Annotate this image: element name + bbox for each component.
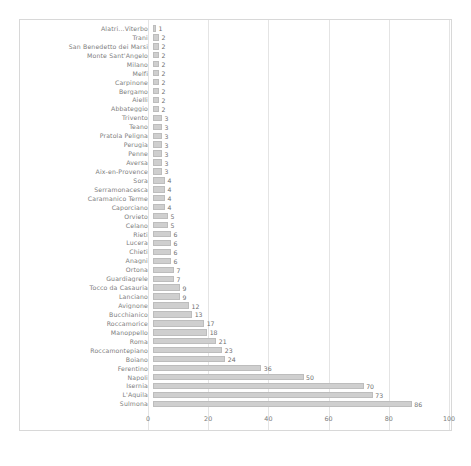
x-tick-label: 0 <box>146 415 150 423</box>
bar[interactable] <box>153 115 162 121</box>
bar-track: 12 <box>153 301 451 310</box>
bar-row[interactable]: Monte Sant'Angelo2 <box>20 51 451 60</box>
bar-row[interactable]: Orvieto5 <box>20 212 451 221</box>
bar[interactable] <box>153 311 192 317</box>
bar-row[interactable]: Lucera6 <box>20 239 451 248</box>
bar-row[interactable]: Caporciano4 <box>20 203 451 212</box>
bar-row[interactable]: Rieti6 <box>20 230 451 239</box>
bar-row[interactable]: Napoli50 <box>20 373 451 382</box>
bar-row[interactable]: Aix-en-Provence3 <box>20 167 451 176</box>
bar[interactable] <box>153 195 165 201</box>
bar-row[interactable]: San Benedetto dei Marsi2 <box>20 42 451 51</box>
bar-row[interactable]: Tocco da Casauria9 <box>20 283 451 292</box>
bar-row[interactable]: Anagni6 <box>20 256 451 265</box>
bar[interactable] <box>153 222 168 228</box>
bar-category-label: Alatri...Viterbo <box>20 25 153 32</box>
x-tick-label: 40 <box>264 415 272 423</box>
bar-value-label: 73 <box>373 391 383 398</box>
bar-category-label: Caramanico Terme <box>20 195 153 202</box>
bar-value-label: 2 <box>159 96 165 103</box>
bar-row[interactable]: Chieti6 <box>20 247 451 256</box>
bar-category-label: Celano <box>20 222 153 229</box>
bar-category-label: Manoppello <box>20 329 153 336</box>
bar-value-label: 2 <box>159 43 165 50</box>
bar-track: 2 <box>153 33 451 42</box>
bar-row[interactable]: Perugia3 <box>20 140 451 149</box>
bar-row[interactable]: Lanciano9 <box>20 292 451 301</box>
bar-category-label: Penne <box>20 150 153 157</box>
bar[interactable] <box>153 159 162 165</box>
bar[interactable] <box>153 213 168 219</box>
bar-row[interactable]: Sora4 <box>20 176 451 185</box>
bar-row[interactable]: Guardiagrele7 <box>20 274 451 283</box>
bar[interactable] <box>153 293 180 299</box>
bar-row[interactable]: Caramanico Terme4 <box>20 194 451 203</box>
bar[interactable] <box>153 141 162 147</box>
bar[interactable] <box>153 276 174 282</box>
bar-row[interactable]: Celano5 <box>20 221 451 230</box>
bar-row[interactable]: Milano2 <box>20 60 451 69</box>
bar-row[interactable]: Avignone12 <box>20 301 451 310</box>
bar[interactable] <box>153 249 171 255</box>
bar-row[interactable]: Trani2 <box>20 33 451 42</box>
bar-category-label: Lucera <box>20 239 153 246</box>
bar-track: 2 <box>153 60 451 69</box>
bar-row[interactable]: Alatri...Viterbo1 <box>20 24 451 33</box>
bar-row[interactable]: Sulmona86 <box>20 399 451 408</box>
bar-row[interactable]: Aielli2 <box>20 96 451 105</box>
bar-track: 13 <box>153 310 451 319</box>
bar-row[interactable]: Melfi2 <box>20 69 451 78</box>
bar[interactable] <box>153 347 222 353</box>
bar-row[interactable]: Bucchianico13 <box>20 310 451 319</box>
bar-category-label: Napoli <box>20 374 153 381</box>
bar[interactable] <box>153 338 216 344</box>
bar[interactable] <box>153 133 162 139</box>
bar[interactable] <box>153 284 180 290</box>
bar[interactable] <box>153 240 171 246</box>
bar[interactable] <box>153 302 189 308</box>
bar-row[interactable]: Aversa3 <box>20 158 451 167</box>
bar-row[interactable]: Carpinone2 <box>20 78 451 87</box>
bar[interactable] <box>153 401 412 407</box>
bar-row[interactable]: Boiano24 <box>20 355 451 364</box>
bar-row[interactable]: Penne3 <box>20 149 451 158</box>
bar-track: 70 <box>153 382 451 391</box>
bar-row[interactable]: Roccamontepiano23 <box>20 346 451 355</box>
bar[interactable] <box>153 150 162 156</box>
bar-row[interactable]: Manoppello18 <box>20 328 451 337</box>
bar-row[interactable]: Ferentino36 <box>20 364 451 373</box>
bar-row[interactable]: Teano3 <box>20 122 451 131</box>
bar-row[interactable]: Roccamorice17 <box>20 319 451 328</box>
bar-category-label: Anagni <box>20 257 153 264</box>
bar-row[interactable]: Serramonacesca4 <box>20 185 451 194</box>
bar[interactable] <box>153 365 261 371</box>
bar[interactable] <box>153 320 204 326</box>
bar-row[interactable]: Trivento3 <box>20 113 451 122</box>
bar-track: 18 <box>153 328 451 337</box>
bar[interactable] <box>153 204 165 210</box>
bar-row[interactable]: Pratola Peligna3 <box>20 131 451 140</box>
bar[interactable] <box>153 392 373 398</box>
bar[interactable] <box>153 231 171 237</box>
bar[interactable] <box>153 186 165 192</box>
bar-category-label: Carpinone <box>20 79 153 86</box>
bar[interactable] <box>153 329 207 335</box>
bar[interactable] <box>153 258 171 264</box>
bar-category-label: Trani <box>20 34 153 41</box>
bar-row[interactable]: Roma21 <box>20 337 451 346</box>
bar-value-label: 6 <box>171 239 177 246</box>
bar-row[interactable]: Abbateggio2 <box>20 104 451 113</box>
bar[interactable] <box>153 267 174 273</box>
bar-row[interactable]: L'Aquila73 <box>20 390 451 399</box>
bar-category-label: Roccamontepiano <box>20 347 153 354</box>
bar-value-label: 2 <box>159 70 165 77</box>
bar[interactable] <box>153 177 165 183</box>
bar[interactable] <box>153 374 304 380</box>
bar[interactable] <box>153 124 162 130</box>
bar-row[interactable]: Bergamo2 <box>20 87 451 96</box>
bar-row[interactable]: Ortona7 <box>20 265 451 274</box>
bar[interactable] <box>153 356 225 362</box>
bar[interactable] <box>153 383 364 389</box>
bar[interactable] <box>153 168 162 174</box>
bar-row[interactable]: Isernia70 <box>20 382 451 391</box>
